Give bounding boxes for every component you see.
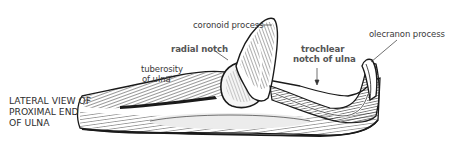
label-trochlear-line1: trochlear <box>301 44 344 54</box>
label-tuberosity-line1: tuberosity <box>141 64 183 74</box>
caption-line-1: LATERAL VIEW OF <box>9 95 91 107</box>
label-tuberosity-line2: of ulna <box>142 74 171 84</box>
caption-line-2: PROXIMAL END <box>9 106 79 118</box>
label-olecranon-process: olecranon process <box>369 29 445 39</box>
leader-olecranon <box>371 40 397 62</box>
label-radial-notch: radial notch <box>171 44 228 54</box>
arrowhead-trochlear <box>315 80 319 85</box>
ulna-diagram: coronoid process radial notch tuberosity… <box>0 0 449 154</box>
caption-line-3: OF ULNA <box>9 117 49 129</box>
label-trochlear-line2: notch of ulna <box>293 54 356 64</box>
label-coronoid-process: coronoid process <box>193 20 264 30</box>
